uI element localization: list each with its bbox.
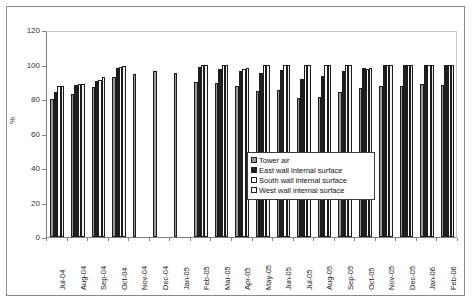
x-axis-tick-mark [252, 238, 253, 241]
bar [451, 65, 454, 238]
y-axis-tick-label: 100 [0, 62, 40, 70]
bar-group [256, 32, 270, 237]
x-axis-tick-mark [210, 238, 211, 241]
legend-label: South wall internal surface [259, 176, 347, 185]
bar [174, 73, 177, 237]
x-axis-tick-mark [190, 238, 191, 241]
x-axis-tick-mark [375, 238, 376, 241]
x-axis-labels: Jul-04Aug-04Sep-04Oct-04Nov-04Dec-04Jan-… [46, 242, 457, 294]
x-axis-tick-mark [395, 238, 396, 241]
bar-group [277, 32, 291, 237]
x-axis-tick-label: Jan-06 [429, 267, 437, 290]
legend-label: East wall internal surface [259, 166, 342, 175]
x-axis-tick-marks [46, 238, 457, 240]
bar-group [379, 32, 393, 237]
bar-group [194, 32, 208, 237]
bar [122, 66, 125, 237]
bar [61, 86, 64, 237]
y-axis-tick-label: 20 [0, 200, 40, 208]
x-axis-tick-mark [354, 238, 355, 241]
legend-swatch-icon [251, 157, 257, 163]
bar [81, 84, 84, 237]
x-axis-tick-label: Nov-04 [141, 266, 149, 290]
legend-label: Tower air [259, 156, 289, 165]
bar-group [174, 32, 188, 237]
bar-group [338, 32, 352, 237]
bar [307, 65, 310, 238]
y-axis-tick-label: 80 [0, 96, 40, 104]
bars-layer [47, 32, 456, 237]
y-axis-tick-label: 120 [0, 27, 40, 35]
x-axis-tick-mark [231, 238, 232, 241]
x-axis-tick-label: Dec-04 [162, 266, 170, 290]
chart-figure: % 020406080100120 Jul-04Aug-04Sep-04Oct-… [0, 0, 473, 303]
x-axis-tick-mark [416, 238, 417, 241]
x-axis-tick-mark [169, 238, 170, 241]
bar-group [359, 32, 373, 237]
y-axis-tick-label: 0 [0, 234, 40, 242]
bar-group [297, 32, 311, 237]
x-axis-tick-label: Sep-05 [347, 266, 355, 290]
bar-group [318, 32, 332, 237]
legend-swatch-icon [251, 177, 257, 183]
x-axis-tick-mark [313, 238, 314, 241]
bar [410, 65, 413, 238]
legend-item-south-wall: South wall internal surface [251, 175, 371, 185]
x-axis-tick-label: Jan-05 [183, 267, 191, 290]
legend-item-west-wall: West wall internal surface [251, 185, 371, 195]
bar [204, 65, 207, 238]
x-axis-tick-mark [46, 238, 47, 241]
x-axis-tick-label: Mar-05 [224, 266, 232, 290]
legend-item-east-wall: East wall internal surface [251, 165, 371, 175]
x-axis-tick-mark [334, 238, 335, 241]
x-axis-tick-mark [436, 238, 437, 241]
plot-area [46, 31, 457, 238]
x-axis-tick-mark [67, 238, 68, 241]
bar-group [215, 32, 229, 237]
x-axis-tick-label: Feb-06 [450, 266, 458, 290]
x-axis-tick-label: Jul-04 [59, 270, 67, 290]
x-axis-tick-label: Feb-05 [203, 266, 211, 290]
bar-group [400, 32, 414, 237]
bar [225, 65, 228, 238]
bar [287, 65, 290, 238]
bar-group [92, 32, 106, 237]
x-axis-tick-mark [108, 238, 109, 241]
x-axis-tick-label: Oct-04 [121, 267, 129, 290]
x-axis-tick-mark [272, 238, 273, 241]
legend-item-tower-air: Tower air [251, 155, 371, 165]
x-axis-tick-mark [457, 238, 458, 241]
bar-group [133, 32, 147, 237]
legend-swatch-icon [251, 167, 257, 173]
x-axis-tick-label: Jul-05 [306, 270, 314, 290]
x-axis-tick-label: Sep-04 [100, 266, 108, 290]
x-axis-tick-label: Aug-04 [80, 266, 88, 290]
x-axis-tick-label: May-05 [265, 265, 273, 290]
x-axis-tick-label: Oct-05 [368, 267, 376, 290]
x-axis-tick-mark [128, 238, 129, 241]
bar [431, 65, 434, 238]
bar [266, 65, 269, 238]
x-axis-tick-mark [149, 238, 150, 241]
bar [102, 77, 105, 237]
bar [348, 65, 351, 238]
y-axis-ticks: 020406080100120 [0, 0, 46, 239]
bar [133, 74, 136, 237]
bar [328, 65, 331, 238]
x-axis-tick-label: Dec-05 [409, 266, 417, 290]
bar-group [441, 32, 455, 237]
bar [153, 71, 156, 237]
x-axis-tick-label: Apr-05 [244, 267, 252, 290]
x-axis-tick-label: Jun-05 [285, 267, 293, 290]
bar-group [71, 32, 85, 237]
chart-legend: Tower air East wall internal surface Sou… [247, 152, 375, 200]
x-axis-tick-mark [87, 238, 88, 241]
bar-group [420, 32, 434, 237]
x-axis-tick-label: Aug-05 [326, 266, 334, 290]
bar-group [235, 32, 249, 237]
bar [389, 65, 392, 238]
y-axis-tick-label: 40 [0, 165, 40, 173]
legend-swatch-icon [251, 187, 257, 193]
bar-group [112, 32, 126, 237]
x-axis-tick-label: Nov-05 [388, 266, 396, 290]
